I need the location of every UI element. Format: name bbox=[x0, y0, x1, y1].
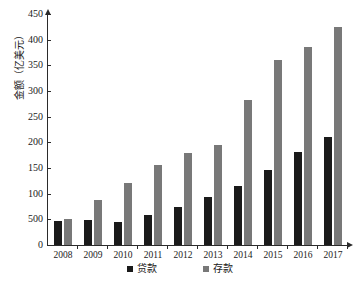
x-axis-tick bbox=[317, 245, 318, 249]
legend-label-loans: 贷款 bbox=[137, 264, 157, 274]
legend-label-deposits: 存款 bbox=[213, 264, 233, 274]
bar-存款-2013 bbox=[214, 145, 223, 245]
x-axis-tick-label: 2017 bbox=[324, 251, 343, 261]
bar-存款-2010 bbox=[124, 183, 133, 245]
y-axis-tick-label: 150 bbox=[28, 163, 43, 173]
bar-存款-2008 bbox=[64, 219, 73, 245]
x-axis-tick-label: 2015 bbox=[264, 251, 283, 261]
x-axis-tick bbox=[227, 245, 228, 249]
x-axis-tick-label: 2010 bbox=[114, 251, 133, 261]
y-axis-tick bbox=[47, 245, 51, 246]
y-axis-tick-label: 300 bbox=[28, 86, 43, 96]
x-axis-tick-label: 2011 bbox=[144, 251, 163, 261]
bar-贷款-2017 bbox=[324, 137, 333, 245]
bar-贷款-2012 bbox=[174, 207, 183, 246]
legend-swatch-deposits-icon bbox=[203, 266, 209, 272]
y-axis-title: 金额（亿美元） bbox=[15, 5, 25, 125]
x-axis-tick bbox=[347, 245, 348, 249]
x-axis-tick bbox=[287, 245, 288, 249]
x-axis-tick bbox=[167, 245, 168, 249]
bar-存款-2016 bbox=[304, 47, 313, 245]
bar-存款-2011 bbox=[154, 165, 163, 245]
x-axis-tick-label: 2013 bbox=[204, 251, 223, 261]
bar-存款-2014 bbox=[244, 100, 253, 245]
bar-贷款-2008 bbox=[54, 221, 63, 245]
bar-存款-2017 bbox=[334, 27, 343, 245]
bar-贷款-2011 bbox=[144, 215, 153, 245]
y-axis-tick-label: 200 bbox=[28, 137, 43, 147]
bar-存款-2015 bbox=[274, 60, 283, 245]
x-axis-tick-label: 2008 bbox=[54, 251, 73, 261]
y-axis-tick-label: 100 bbox=[28, 189, 43, 199]
bar-chart: 金额（亿美元） 0500100150200250300350400450 200… bbox=[0, 0, 359, 289]
x-axis-tick-label: 2014 bbox=[234, 251, 253, 261]
plot-area: 0500100150200250300350400450 20082009201… bbox=[47, 14, 348, 245]
x-axis-tick bbox=[137, 245, 138, 249]
bars-layer bbox=[48, 14, 348, 245]
x-axis-tick bbox=[197, 245, 198, 249]
bar-贷款-2009 bbox=[84, 220, 93, 245]
x-axis-tick-label: 2016 bbox=[294, 251, 313, 261]
y-axis-tick-label: 350 bbox=[28, 60, 43, 70]
bar-存款-2009 bbox=[94, 200, 103, 245]
y-axis-tick-label: 500 bbox=[28, 214, 43, 224]
legend-item-deposits[interactable]: 存款 bbox=[203, 264, 233, 274]
legend-item-loans[interactable]: 贷款 bbox=[127, 264, 157, 274]
x-axis-tick bbox=[257, 245, 258, 249]
x-axis-tick-label: 2009 bbox=[84, 251, 103, 261]
bar-贷款-2015 bbox=[264, 170, 273, 245]
bar-贷款-2010 bbox=[114, 222, 123, 245]
bar-贷款-2016 bbox=[294, 152, 303, 245]
y-axis-tick-label: 0 bbox=[38, 240, 43, 250]
legend-swatch-loans-icon bbox=[127, 266, 133, 272]
bar-存款-2012 bbox=[184, 153, 193, 245]
bar-贷款-2014 bbox=[234, 186, 243, 245]
bar-贷款-2013 bbox=[204, 197, 213, 245]
x-axis-tick bbox=[77, 245, 78, 249]
x-axis-tick-label: 2012 bbox=[174, 251, 193, 261]
y-axis-tick-label: 250 bbox=[28, 112, 43, 122]
y-axis-tick-label: 450 bbox=[28, 9, 43, 19]
legend: 贷款 存款 bbox=[0, 264, 359, 274]
x-axis-tick bbox=[107, 245, 108, 249]
y-axis-tick-label: 400 bbox=[28, 35, 43, 45]
